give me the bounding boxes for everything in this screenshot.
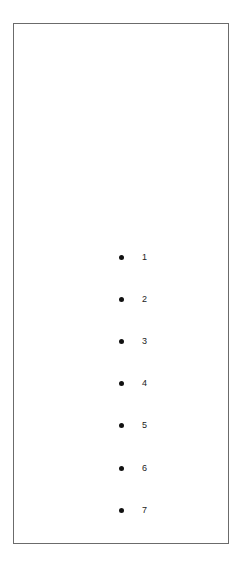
list-item: 3 <box>14 335 94 349</box>
bullet-icon <box>119 381 124 386</box>
list-item: 2 <box>14 293 94 307</box>
list-item-label: 6 <box>142 462 147 474</box>
list-item-label: 7 <box>142 504 147 516</box>
bullet-icon <box>119 508 124 513</box>
bullet-icon <box>119 423 124 428</box>
bullet-icon <box>119 255 124 260</box>
list-item-label: 2 <box>142 293 147 305</box>
list-container: 1 2 3 4 5 6 7 <box>13 23 229 544</box>
list-item: 4 <box>14 377 94 391</box>
list-item: 1 <box>14 251 94 265</box>
list-item-label: 1 <box>142 251 147 263</box>
list-item-label: 4 <box>142 377 147 389</box>
list-item: 7 <box>14 504 94 518</box>
list-item-label: 3 <box>142 335 147 347</box>
bullet-icon <box>119 339 124 344</box>
bullet-icon <box>119 466 124 471</box>
list-item: 5 <box>14 419 94 433</box>
list-item: 6 <box>14 462 94 476</box>
bullet-icon <box>119 297 124 302</box>
list-item-label: 5 <box>142 419 147 431</box>
